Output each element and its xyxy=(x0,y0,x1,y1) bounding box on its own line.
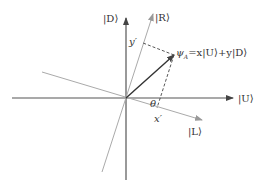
label-u-axis: |U⟩ xyxy=(238,94,254,104)
projection-y-prime xyxy=(143,43,174,55)
label-l-axis: |L⟩ xyxy=(188,127,202,137)
psi-symbol: ψ xyxy=(176,47,184,58)
l-axis xyxy=(42,72,202,120)
label-state-vector: ψA=x|U⟩+y|D⟩ xyxy=(176,48,247,60)
state-equation: =x|U⟩+y|D⟩ xyxy=(188,47,247,58)
label-y-prime: y′ xyxy=(129,37,137,47)
label-d-axis: |D⟩ xyxy=(103,14,118,24)
label-x-prime: x′ xyxy=(154,114,162,124)
r-axis xyxy=(102,14,153,172)
label-theta: θ xyxy=(150,99,156,109)
label-r-axis: |R⟩ xyxy=(155,13,170,23)
diagram-canvas xyxy=(0,0,263,186)
